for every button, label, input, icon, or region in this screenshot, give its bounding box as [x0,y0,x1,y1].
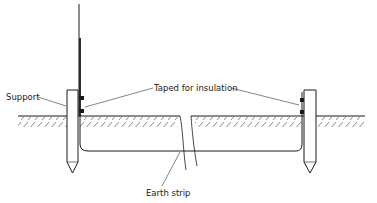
support-label: Support [6,92,40,102]
ground-right [191,116,365,166]
left-support-post [67,90,78,173]
right-support-post [302,90,316,173]
taped-label: Taped for insulation [153,83,238,93]
ground-left [18,116,186,170]
earthing-diagram: Support Taped for insulation Earth strip [0,0,377,203]
earth-strip-label: Earth strip [146,188,191,198]
